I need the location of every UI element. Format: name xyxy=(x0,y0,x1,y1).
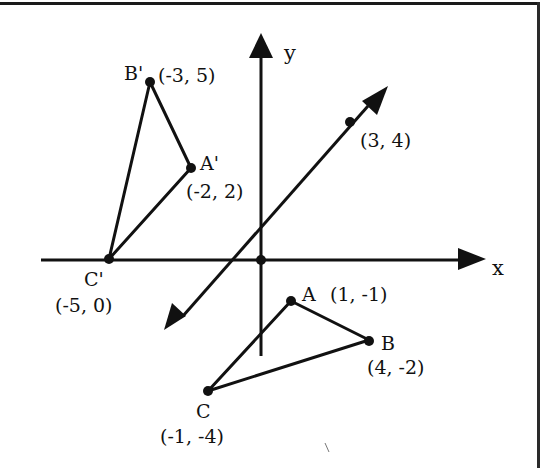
point-b-prime xyxy=(145,77,155,87)
a-coords: (1, -1) xyxy=(330,283,388,305)
a-prime-label: A' xyxy=(199,152,219,174)
point-c xyxy=(203,386,213,396)
x-axis-label: x xyxy=(492,256,504,280)
diagram-frame: x y (3, 4) B' (-3, 5) A' (-2, 2) C' (-5 xyxy=(0,0,544,468)
b-prime-label: B' xyxy=(124,62,143,84)
coordinate-plane: x y (3, 4) B' (-3, 5) A' (-2, 2) C' (-5 xyxy=(0,0,544,468)
point-a-prime xyxy=(186,163,196,173)
reflection-line-arrow-down-icon xyxy=(164,303,186,330)
c-prime-label: C' xyxy=(84,268,104,290)
y-axis-label: y xyxy=(283,41,296,65)
y-axis xyxy=(249,33,273,356)
point-a xyxy=(286,296,296,306)
triangle-original xyxy=(203,296,374,396)
c-prime-coords: (-5, 0) xyxy=(55,294,113,316)
point-3-4 xyxy=(345,117,355,127)
b-prime-coords: (-3, 5) xyxy=(158,64,216,86)
triangle-image xyxy=(104,77,196,264)
stray-mark xyxy=(325,443,329,452)
a-label: A xyxy=(301,283,316,305)
c-label: C xyxy=(196,400,211,422)
origin-point xyxy=(256,255,266,265)
point-c-prime xyxy=(104,254,114,264)
x-axis-arrow-icon xyxy=(458,248,486,270)
b-coords: (4, -2) xyxy=(367,356,425,378)
a-prime-coords: (-2, 2) xyxy=(186,180,244,202)
y-axis-arrow-icon xyxy=(249,33,273,58)
b-label: B xyxy=(381,332,395,354)
point-3-4-label: (3, 4) xyxy=(360,129,411,151)
c-coords: (-1, -4) xyxy=(160,425,224,447)
point-b xyxy=(364,336,374,346)
